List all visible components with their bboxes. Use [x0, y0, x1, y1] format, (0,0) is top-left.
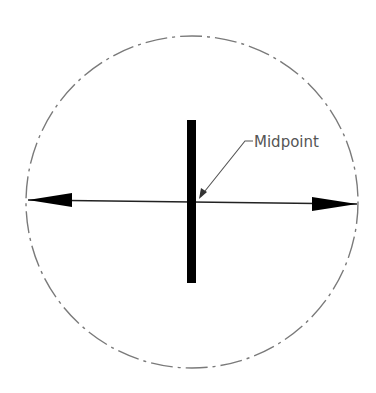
perpendicular-bisector-bar — [187, 120, 196, 283]
midpoint-leader-line — [201, 141, 253, 196]
midpoint-label: Midpoint — [254, 133, 319, 151]
midpoint-diagram: Midpoint — [0, 0, 376, 393]
left-arrowhead-icon — [28, 193, 72, 207]
right-arrowhead-icon — [312, 197, 357, 211]
